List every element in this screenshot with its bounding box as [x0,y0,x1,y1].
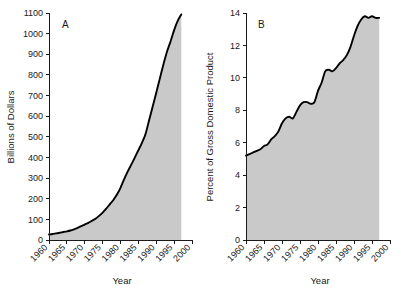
x-tick-label: 1985 [315,242,336,263]
x-tick-label: 2000 [171,242,192,263]
x-tick-label: 1970 [261,242,282,263]
x-tick-label: 1980 [297,242,318,263]
panel-b-letter: B [258,19,265,30]
y-tick-label: 200 [28,194,43,204]
y-tick-label: 600 [28,111,43,121]
panel-a-y-axis-title: Billions of Dollars [5,90,16,163]
panel-a-letter: A [62,19,69,30]
panel-b-area-fill [246,16,379,240]
y-tick-label: 4 [235,170,240,180]
y-tick-label: 12 [230,41,240,51]
y-tick-label: 10 [230,73,240,83]
panel-b-y-axis-title: Percent of Gross Domestic Product [204,52,215,201]
panel-b-x-tick-labels: 196019651970197519801985199019952000 [225,242,390,263]
panel-a-plot-area [49,14,181,240]
panel-b-svg: 02468101214 1960196519701975198019851990… [200,0,401,289]
x-tick-label: 1970 [64,242,85,263]
y-tick-label: 800 [28,70,43,80]
y-tick-label: 700 [28,91,43,101]
x-tick-label: 1995 [351,242,372,263]
x-tick-label: 2000 [369,242,390,263]
panel-a-area-fill [49,14,181,240]
panel-a-x-axis-title: Year [112,275,131,286]
x-tick-label: 1990 [333,242,354,263]
x-tick-label: 1965 [243,242,264,263]
x-tick-label: 1965 [46,242,67,263]
y-tick-label: 2 [235,203,240,213]
y-tick-label: 500 [28,132,43,142]
figure-container: 010020030040050060070080090010001100 196… [0,0,401,289]
panel-b-plot-area [246,16,379,240]
x-tick-label: 1975 [279,242,300,263]
x-tick-label: 1990 [135,242,156,263]
panel-b-x-axis-title: Year [310,275,329,286]
x-tick-label: 1985 [118,242,139,263]
y-tick-label: 300 [28,173,43,183]
x-tick-label: 1980 [100,242,121,263]
y-tick-label: 100 [28,215,43,225]
panel-a-y-tick-labels: 010020030040050060070080090010001100 [23,8,43,245]
y-tick-label: 6 [235,138,240,148]
panel-a-x-tick-labels: 196019651970197519801985199019952000 [28,242,192,263]
chart-panel-a: 010020030040050060070080090010001100 196… [0,0,200,289]
panel-b-y-tick-labels: 02468101214 [230,8,240,245]
chart-panel-b: 02468101214 1960196519701975198019851990… [200,0,400,289]
y-tick-label: 1100 [24,8,43,18]
y-tick-label: 1000 [23,29,43,39]
x-tick-label: 1995 [153,242,174,263]
y-tick-label: 900 [28,49,43,59]
y-tick-label: 400 [28,153,43,163]
y-tick-label: 8 [235,105,240,115]
x-tick-label: 1960 [28,242,49,263]
panel-a-svg: 010020030040050060070080090010001100 196… [0,0,200,289]
y-tick-label: 14 [230,8,240,18]
x-tick-label: 1975 [82,242,103,263]
x-tick-label: 1960 [225,242,246,263]
